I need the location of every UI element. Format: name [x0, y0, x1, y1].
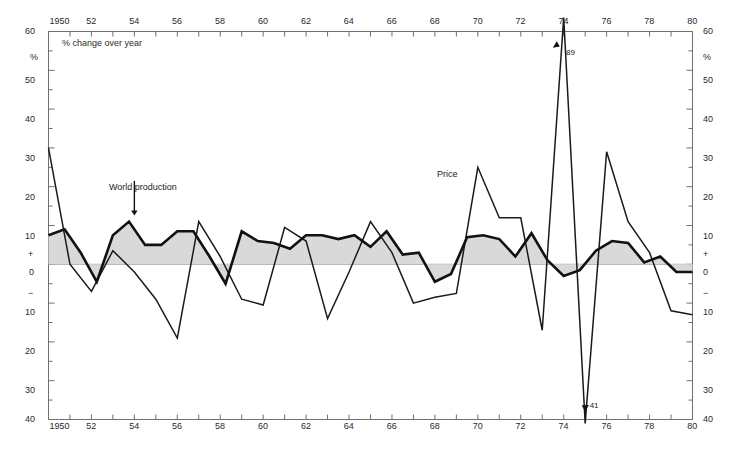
- x-axis-label-bottom-1968: 68: [430, 421, 440, 431]
- x-axis-ticks-bottom: [49, 415, 693, 420]
- x-axis-label-bottom-1952: 52: [86, 421, 96, 431]
- x-axis-label-bottom-1974: 74: [559, 421, 569, 431]
- chart-container: 60 % 50 40 30 20 10 + 0 − 10 20 30 40 60…: [0, 0, 741, 452]
- plot-svg: [0, 0, 741, 452]
- x-axis-ticks-top: [49, 32, 693, 37]
- x-axis-label-top-1978: 78: [644, 16, 654, 26]
- axes-group: [49, 32, 693, 420]
- x-axis-label-bottom-1976: 76: [601, 421, 611, 431]
- x-axis-label-top-1974: 74: [559, 16, 569, 26]
- world-production-arrow-head-icon: [131, 210, 137, 215]
- x-axis-label-top-1976: 76: [601, 16, 611, 26]
- x-axis-label-top-1968: 68: [430, 16, 440, 26]
- x-axis-label-bottom-1956: 56: [172, 421, 182, 431]
- y-axis-ticks-left: [49, 32, 55, 420]
- x-axis-label-top-1958: 58: [215, 16, 225, 26]
- x-axis-label-bottom-1970: 70: [473, 421, 483, 431]
- x-axis-label-bottom-1954: 54: [129, 421, 139, 431]
- x-axis-label-bottom-1958: 58: [215, 421, 225, 431]
- x-axis-label-bottom-1964: 64: [344, 421, 354, 431]
- x-axis-label-bottom-1950: 1950: [50, 421, 70, 431]
- price-trough-arrow-head-icon: [582, 405, 589, 412]
- x-axis-label-top-1962: 62: [301, 16, 311, 26]
- x-axis-label-top-1966: 66: [387, 16, 397, 26]
- price-line: [49, 18, 693, 424]
- x-axis-label-top-1960: 60: [258, 16, 268, 26]
- annotation-arrows-group: [131, 41, 588, 412]
- x-axis-label-top-1964: 64: [344, 16, 354, 26]
- x-axis-label-top-1970: 70: [473, 16, 483, 26]
- x-axis-label-bottom-1978: 78: [644, 421, 654, 431]
- x-axis-label-top-1952: 52: [86, 16, 96, 26]
- x-axis-label-top-1972: 72: [516, 16, 526, 26]
- series-group: [49, 18, 693, 424]
- plot-frame: [49, 32, 693, 420]
- x-axis-label-bottom-1962: 62: [301, 421, 311, 431]
- x-axis-label-bottom-1980: 80: [687, 421, 697, 431]
- x-axis-label-top-1950: 1950: [50, 16, 70, 26]
- x-axis-label-top-1954: 54: [129, 16, 139, 26]
- price-peak-arrow-head-icon: [553, 41, 560, 48]
- x-axis-label-bottom-1972: 72: [516, 421, 526, 431]
- x-axis-label-top-1980: 80: [687, 16, 697, 26]
- x-axis-label-bottom-1966: 66: [387, 421, 397, 431]
- y-axis-ticks-right: [687, 32, 693, 420]
- x-axis-label-top-1956: 56: [172, 16, 182, 26]
- x-axis-label-bottom-1960: 60: [258, 421, 268, 431]
